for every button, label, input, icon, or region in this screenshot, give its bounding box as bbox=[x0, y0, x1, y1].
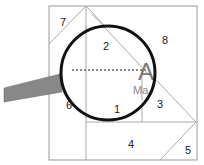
region-label-6: 6 bbox=[66, 99, 72, 111]
region-label-7: 7 bbox=[60, 16, 66, 28]
region-label-1: 1 bbox=[114, 103, 120, 115]
region-label-4: 4 bbox=[128, 138, 134, 150]
puzzle-diagram: A Ma 1 2 3 4 5 6 7 8 bbox=[0, 0, 204, 165]
region-label-5: 5 bbox=[185, 144, 191, 156]
region-label-8: 8 bbox=[162, 34, 168, 46]
magnifier-handle bbox=[4, 74, 62, 102]
magnified-letter: A bbox=[138, 58, 154, 85]
region-label-2: 2 bbox=[103, 40, 109, 52]
region-label-3: 3 bbox=[157, 98, 163, 110]
magnified-text: Ma bbox=[133, 84, 149, 96]
